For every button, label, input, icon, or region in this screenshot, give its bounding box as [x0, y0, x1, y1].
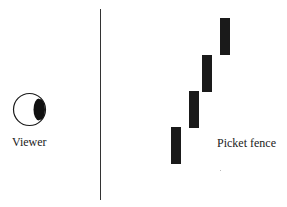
- picket-3: [202, 55, 212, 92]
- diagram-canvas: Viewer Picket fence: [0, 0, 287, 207]
- speck: [220, 170, 221, 171]
- picket-fence-label: Picket fence: [217, 136, 276, 151]
- viewer-label: Viewer: [12, 135, 47, 150]
- picket-2: [189, 91, 199, 128]
- divider-line: [100, 9, 101, 200]
- picket-4: [220, 18, 230, 55]
- eye-icon: [12, 92, 47, 127]
- picket-1: [171, 127, 181, 164]
